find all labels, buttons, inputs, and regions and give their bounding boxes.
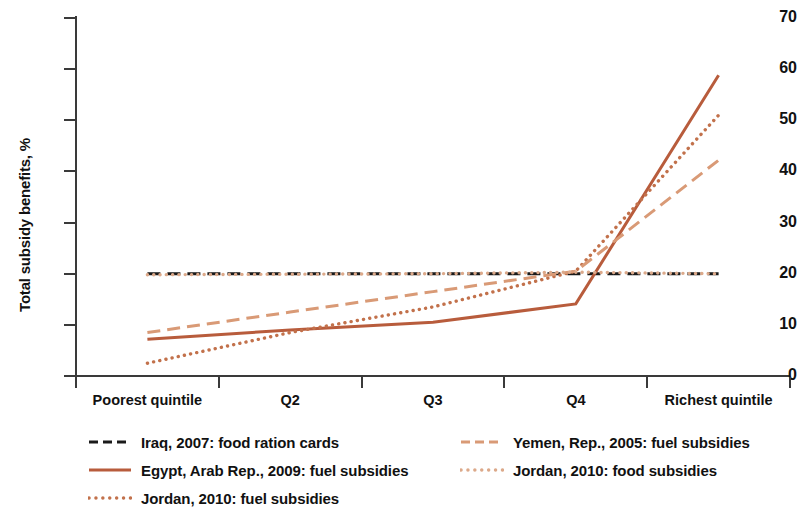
x-axis-line — [75, 375, 790, 377]
legend-item[interactable]: Jordan, 2010: fuel subsidies — [88, 484, 339, 512]
legend-row: Iraq, 2007: food ration cardsYemen, Rep.… — [88, 428, 788, 456]
y-tick-mark — [64, 68, 76, 70]
series-line-2 — [147, 115, 718, 363]
legend-swatch-dotted-icon — [88, 491, 132, 505]
legend-swatch-dashed-icon — [88, 435, 132, 449]
y-axis-title-text: Total subsidy benefits, % — [16, 45, 33, 405]
x-tick-mark — [218, 377, 220, 388]
legend-swatch-solid-icon — [88, 463, 132, 477]
legend-swatch-dotted-icon — [460, 463, 504, 477]
x-tick-mark — [361, 377, 363, 388]
x-tick-mark — [646, 377, 648, 388]
y-tick-mark — [64, 273, 76, 275]
series-line-4 — [147, 272, 718, 275]
legend-label: Jordan, 2010: fuel subsidies — [141, 490, 339, 507]
x-tick-mark — [789, 377, 791, 388]
y-tick-mark — [64, 17, 76, 19]
subsidy-benefits-chart: Total subsidy benefits, % 01020304050607… — [0, 0, 797, 521]
legend-label: Jordan, 2010: food subsidies — [513, 462, 717, 479]
legend-item[interactable]: Yemen, Rep., 2005: fuel subsidies — [460, 428, 750, 456]
y-tick-label: 50 — [751, 111, 797, 127]
legend-label: Iraq, 2007: food ration cards — [141, 434, 339, 451]
y-tick-mark — [64, 222, 76, 224]
legend-row: Jordan, 2010: fuel subsidies — [88, 484, 788, 512]
y-tick-label: 30 — [751, 214, 797, 230]
legend-swatch-dashed-icon — [460, 435, 504, 449]
y-axis-line — [75, 16, 77, 377]
legend-row: Egypt, Arab Rep., 2009: fuel subsidiesJo… — [88, 456, 788, 484]
legend-item[interactable]: Egypt, Arab Rep., 2009: fuel subsidies — [88, 456, 408, 484]
series-line-1 — [147, 75, 718, 339]
y-tick-label: 10 — [751, 316, 797, 332]
x-tick-label: Q2 — [281, 392, 300, 408]
x-tick-label: Richest quintile — [665, 392, 773, 408]
legend-item[interactable]: Iraq, 2007: food ration cards — [88, 428, 339, 456]
legend: Iraq, 2007: food ration cardsYemen, Rep.… — [88, 428, 788, 512]
y-tick-label: 40 — [751, 162, 797, 178]
y-tick-label: 70 — [751, 9, 797, 25]
legend-label: Yemen, Rep., 2005: fuel subsidies — [513, 434, 750, 451]
x-tick-mark — [503, 377, 505, 388]
series-line-3 — [147, 160, 718, 332]
y-tick-mark — [64, 170, 76, 172]
x-tick-label: Poorest quintile — [93, 392, 203, 408]
y-tick-label: 20 — [751, 265, 797, 281]
y-tick-mark — [64, 324, 76, 326]
x-tick-mark — [75, 377, 77, 388]
y-tick-label: 60 — [751, 60, 797, 76]
legend-item[interactable]: Jordan, 2010: food subsidies — [460, 456, 717, 484]
x-tick-label: Q4 — [566, 392, 585, 408]
x-tick-label: Q3 — [423, 392, 442, 408]
y-tick-mark — [64, 119, 76, 121]
legend-label: Egypt, Arab Rep., 2009: fuel subsidies — [141, 462, 408, 479]
